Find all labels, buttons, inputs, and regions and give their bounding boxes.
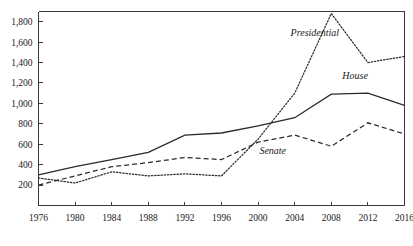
x-tick-label: 2000 bbox=[249, 213, 268, 223]
chart-axes bbox=[39, 12, 405, 206]
x-tick-label: 1980 bbox=[66, 213, 85, 223]
series-label-senate: Senate bbox=[259, 145, 286, 156]
data-series-group bbox=[39, 14, 405, 186]
series-annotations: PresidentialHouseSenate bbox=[259, 27, 368, 156]
y-tick-label: 800 bbox=[18, 119, 33, 129]
line-chart: 2004006008001,0001,2001,4001,6001,800 19… bbox=[0, 0, 413, 246]
x-tick-label: 2004 bbox=[285, 213, 304, 223]
y-tick-label: 1,200 bbox=[11, 78, 33, 88]
chart-figure: 2004006008001,0001,2001,4001,6001,800 19… bbox=[0, 0, 413, 246]
x-axis-ticks: 1976198019841988199219962000200420082012… bbox=[29, 202, 413, 223]
y-axis-ticks: 2004006008001,0001,2001,4001,6001,800 bbox=[11, 17, 42, 190]
y-tick-label: 200 bbox=[18, 180, 33, 190]
y-tick-label: 600 bbox=[18, 140, 33, 150]
y-tick-label: 1,000 bbox=[11, 99, 33, 109]
series-line-presidential bbox=[39, 14, 405, 184]
series-label-presidential: Presidential bbox=[290, 27, 340, 38]
y-tick-label: 400 bbox=[18, 160, 33, 170]
x-tick-label: 1984 bbox=[102, 213, 121, 223]
y-tick-label: 1,800 bbox=[11, 17, 33, 27]
x-tick-label: 1996 bbox=[212, 213, 231, 223]
x-tick-label: 2008 bbox=[322, 213, 341, 223]
x-tick-label: 1988 bbox=[139, 213, 158, 223]
y-tick-label: 1,400 bbox=[11, 58, 33, 68]
x-tick-label: 1976 bbox=[29, 213, 48, 223]
x-tick-label: 2016 bbox=[395, 213, 413, 223]
series-label-house: House bbox=[341, 70, 368, 81]
x-tick-label: 2012 bbox=[358, 213, 377, 223]
x-tick-label: 1992 bbox=[175, 213, 194, 223]
y-tick-label: 1,600 bbox=[11, 38, 33, 48]
